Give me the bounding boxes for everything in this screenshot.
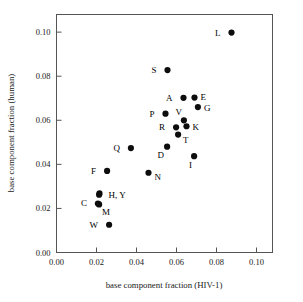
data-point-label: H, Y — [109, 190, 127, 200]
x-tick-label: 0.06 — [169, 257, 184, 267]
y-tick-label: 0.10 — [36, 27, 51, 37]
data-point-label: W — [90, 220, 99, 230]
x-axis-title: base component fraction (HIV-1) — [106, 280, 223, 290]
y-tick-label: 0.02 — [36, 203, 51, 213]
data-point-label: K — [193, 122, 200, 132]
x-tick-label: 0.00 — [49, 257, 64, 267]
data-point — [195, 104, 201, 110]
data-point-label: P — [149, 109, 154, 119]
data-point — [106, 222, 112, 228]
data-point-label: C — [81, 198, 87, 208]
chart-canvas: 0.000.020.040.060.080.100.000.020.040.06… — [0, 0, 303, 302]
data-point — [164, 144, 170, 150]
x-tick-label: 0.10 — [249, 257, 264, 267]
y-tick-label: 0.00 — [36, 248, 51, 258]
data-point — [191, 153, 197, 159]
data-point-label: L — [215, 28, 221, 38]
data-point-label: F — [91, 166, 96, 176]
data-point — [128, 145, 134, 151]
x-tick-label: 0.08 — [209, 257, 224, 267]
data-point — [162, 111, 168, 117]
data-point-label: G — [204, 103, 211, 113]
data-point — [175, 132, 181, 138]
data-point — [191, 94, 197, 100]
data-point — [173, 124, 179, 130]
data-point — [104, 168, 110, 174]
y-axis-title: base component fraction (human) — [6, 74, 16, 193]
data-point-label: E — [201, 92, 207, 102]
data-point-label: I — [189, 160, 192, 170]
y-tick-label: 0.04 — [36, 159, 52, 169]
data-point — [145, 170, 151, 176]
data-point-label: N — [155, 172, 162, 182]
data-point-label: Q — [113, 143, 120, 153]
data-point — [180, 95, 186, 101]
data-point-label: M — [102, 207, 110, 217]
data-point-label: D — [158, 150, 165, 160]
data-point — [164, 67, 170, 73]
data-point-label: R — [159, 122, 165, 132]
x-tick-label: 0.04 — [129, 257, 145, 267]
data-point-label: A — [166, 93, 173, 103]
data-point — [181, 117, 187, 123]
x-tick-label: 0.02 — [89, 257, 104, 267]
scatter-chart: 0.000.020.040.060.080.100.000.020.040.06… — [0, 0, 303, 302]
data-point — [228, 29, 234, 35]
y-tick-label: 0.06 — [36, 115, 51, 125]
data-point-label: T — [183, 135, 189, 145]
data-point-label: V — [175, 107, 182, 117]
data-point — [183, 123, 189, 129]
y-tick-label: 0.08 — [36, 71, 51, 81]
data-point-label: S — [151, 65, 156, 75]
data-point — [96, 192, 102, 198]
